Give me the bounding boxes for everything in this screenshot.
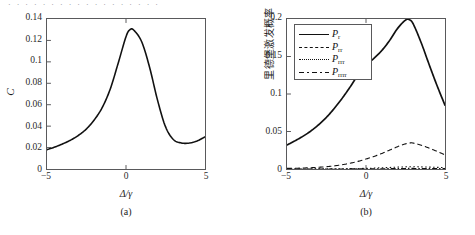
legend-item-pr: Pr	[299, 28, 368, 41]
panel-b-y-tick-labels: 0 0.05 0.1 0.15 0.2	[238, 18, 282, 170]
panel-a-plot-svg	[47, 19, 205, 169]
legend-line-solid-icon	[299, 29, 329, 39]
panel-b-caption: (b)	[286, 206, 446, 217]
y-tick: 0.12	[25, 35, 42, 45]
y-tick: 0.02	[25, 144, 42, 154]
y-tick: 0.08	[25, 78, 42, 88]
legend-label-prrr: Prrr	[329, 54, 345, 64]
x-tick: 5	[204, 172, 209, 182]
x-tick: 5	[444, 172, 449, 182]
y-tick: 0.04	[25, 122, 42, 132]
panel-b-legend: Pr Prr Prrr Prrrr	[294, 24, 372, 80]
panel-a-y-tick-labels: 0 0.02 0.04 0.06 0.08 0.1 0.12 0.14	[0, 18, 42, 170]
legend-item-prr: Prr	[299, 41, 368, 54]
panel-a-y-ticks	[47, 40, 51, 147]
x-tick: −5	[41, 172, 51, 182]
legend-label-pr: Pr	[329, 29, 340, 39]
y-tick: 0.2	[270, 13, 282, 23]
legend-line-dashed-icon	[299, 42, 329, 52]
legend-label-prrrr: Prrrr	[329, 67, 347, 77]
y-tick: 0.05	[265, 127, 282, 137]
panel-b-x-tick-labels: −5 0 5	[286, 172, 446, 186]
y-tick: 0.15	[265, 51, 282, 61]
figure-container: · · · · · · · · · · · · · · · · · · C 0 …	[0, 0, 475, 235]
y-tick: 0.1	[270, 89, 282, 99]
panel-a-plot-area	[46, 18, 206, 170]
panel-a: C 0 0.02 0.04 0.06 0.08 0.1 0.12 0.14	[0, 0, 237, 235]
legend-line-dashdot-icon	[299, 67, 329, 77]
y-tick: 0.1	[30, 57, 42, 67]
panel-b: 里德堡激发概率 0 0.05 0.1 0.15 0.2	[238, 0, 475, 235]
legend-item-prrr: Prrr	[299, 53, 368, 66]
y-tick: 0.14	[25, 13, 42, 23]
x-tick: 0	[124, 172, 129, 182]
panel-a-curve-c	[47, 29, 205, 150]
panel-a-caption: (a)	[46, 206, 206, 217]
panel-b-x-axis-title: Δ/γ	[286, 188, 446, 199]
legend-line-dotted-icon	[299, 54, 329, 64]
panel-b-curve-prr	[287, 143, 445, 169]
x-tick: 0	[364, 172, 369, 182]
panel-a-x-tick-labels: −5 0 5	[46, 172, 206, 186]
panel-b-y-ticks	[287, 57, 291, 132]
panel-a-x-axis-title: Δ/γ	[46, 188, 206, 199]
x-tick: −5	[281, 172, 291, 182]
legend-item-prrrr: Prrrr	[299, 66, 368, 79]
y-tick: 0.06	[25, 100, 42, 110]
legend-label-prr: Prr	[329, 42, 342, 52]
